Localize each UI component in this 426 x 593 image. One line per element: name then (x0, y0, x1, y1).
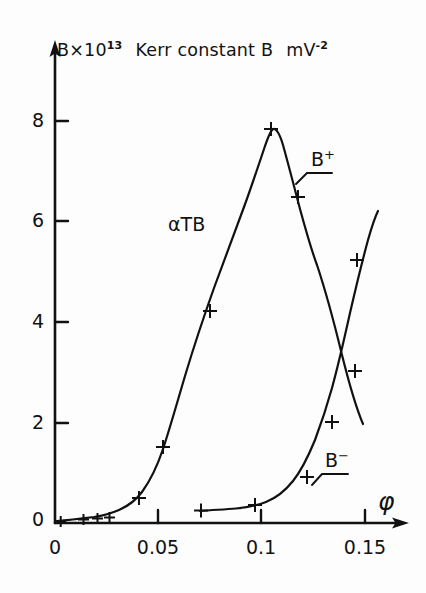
marker-point (348, 364, 362, 378)
marker-point (291, 190, 305, 204)
marker-point (300, 470, 314, 484)
y-tick-label-8: 8 (18, 111, 44, 130)
x-axis-label: φ (378, 489, 395, 514)
leader-line-b-plus (296, 173, 332, 184)
y-tick-label-0: 0 (18, 510, 44, 529)
kerr-constant-chart-figure: B×1013Kerr constant BmV-2 8 6 4 2 0 0 0.… (0, 0, 426, 593)
series-label-b-minus-superscript: − (338, 448, 349, 463)
series-label-alpha-tb: αTB (168, 215, 205, 234)
chart-title: B×1013Kerr constant BmV-2 (57, 40, 328, 59)
leader-line-b-minus (312, 474, 348, 485)
y-tick-label-6: 6 (18, 211, 44, 230)
markers-b-minus (194, 253, 364, 518)
marker-point (55, 516, 66, 527)
title-axis-prefix: B×10 (57, 40, 107, 60)
plot-canvas (0, 0, 426, 593)
x-tick-label-005: 0.05 (128, 538, 188, 557)
x-tick-label-015: 0.15 (335, 538, 395, 557)
series-label-b-plus-base: B (311, 148, 324, 170)
title-axis-exponent: 13 (107, 39, 123, 52)
series-label-b-minus-base: B (325, 449, 338, 471)
y-tick-label-4: 4 (18, 312, 44, 331)
series-label-b-plus: B+ (311, 148, 335, 169)
marker-point (325, 415, 339, 429)
title-units-base: mV (286, 40, 315, 60)
markers-b-plus (55, 122, 362, 527)
x-tick-label-0: 0 (44, 538, 66, 557)
title-main-text: Kerr constant B (135, 40, 273, 60)
marker-point (194, 504, 208, 518)
curve-b-plus (57, 129, 363, 521)
title-units-exponent: -2 (316, 39, 329, 52)
series-label-b-minus: B− (325, 449, 349, 470)
marker-point (264, 122, 278, 136)
y-tick-label-2: 2 (18, 413, 44, 432)
marker-point (156, 440, 170, 454)
marker-point (132, 491, 146, 505)
x-tick-label-01: 0.1 (238, 538, 284, 557)
series-label-b-plus-superscript: + (324, 147, 335, 162)
